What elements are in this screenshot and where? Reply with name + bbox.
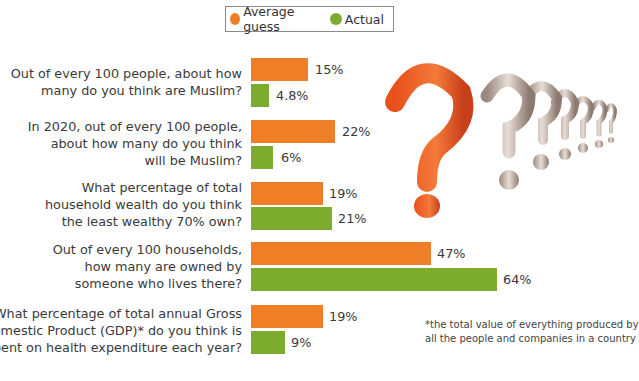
question-line: Out of every 100 households,	[53, 241, 242, 258]
legend-item-average-guess: Average guess	[230, 4, 321, 34]
question-line: household wealth do you think	[45, 196, 242, 213]
value-actual-5: 9%	[291, 331, 311, 354]
footnote-line: all the people and companies in a countr…	[425, 332, 639, 346]
question-line: how many are owned by	[53, 258, 242, 275]
question-label-1: Out of every 100 people, about how many …	[11, 65, 242, 99]
legend-swatch-green	[330, 13, 342, 25]
bar-guess-2	[251, 120, 335, 143]
bar-guess-1	[251, 58, 308, 81]
value-actual-1: 4.8%	[276, 84, 309, 107]
question-line: Domestic Product (GDP)* do you think is	[0, 322, 242, 339]
question-line: someone who lives there?	[53, 275, 242, 292]
footnote: *the total value of everything produced …	[425, 318, 639, 346]
value-guess-2: 22%	[342, 120, 370, 143]
bar-actual-5	[251, 331, 285, 354]
question-line: about how many do you think	[28, 135, 242, 152]
question-line: many do you think are Muslim?	[11, 82, 242, 99]
question-label-2: In 2020, out of every 100 people, about …	[28, 118, 242, 169]
bar-actual-2	[251, 146, 273, 169]
question-line: What percentage of total annual Gross	[0, 305, 242, 322]
bar-guess-4	[251, 242, 431, 265]
value-guess-3: 19%	[329, 182, 357, 205]
value-guess-4: 47%	[437, 242, 465, 265]
question-line: In 2020, out of every 100 people,	[28, 118, 242, 135]
question-line: will be Muslim?	[28, 152, 242, 169]
bar-actual-4	[251, 268, 497, 291]
footnote-line: *the total value of everything produced …	[425, 318, 639, 332]
bar-guess-5	[251, 305, 323, 328]
value-actual-4: 64%	[503, 268, 531, 291]
legend-label: Average guess	[243, 4, 321, 34]
value-actual-2: 6%	[281, 146, 301, 169]
bar-guess-3	[251, 182, 323, 205]
legend-swatch-orange	[230, 13, 240, 25]
bar-actual-1	[251, 84, 269, 107]
question-label-4: Out of every 100 households, how many ar…	[53, 241, 242, 292]
question-marks-image	[375, 40, 628, 220]
legend-item-actual: Actual	[330, 12, 384, 27]
chart-legend: Average guess Actual	[225, 6, 394, 32]
value-guess-1: 15%	[315, 58, 343, 81]
legend-label: Actual	[345, 12, 384, 27]
bar-actual-3	[251, 207, 332, 230]
question-line: the least wealthy 70% own?	[45, 213, 242, 230]
value-actual-3: 21%	[338, 207, 366, 230]
question-label-3: What percentage of total household wealt…	[45, 179, 242, 230]
question-line: What percentage of total	[45, 179, 242, 196]
value-guess-5: 19%	[329, 305, 357, 328]
question-line: spent on health expenditure each year?	[0, 339, 242, 356]
question-label-5: What percentage of total annual Gross Do…	[0, 305, 242, 356]
question-line: Out of every 100 people, about how	[11, 65, 242, 82]
